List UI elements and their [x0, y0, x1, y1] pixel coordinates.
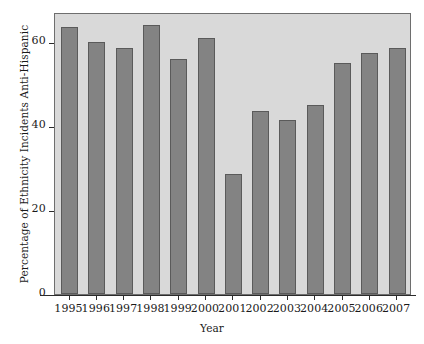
bars-layer: [55, 14, 410, 294]
bar-2000: [198, 38, 215, 294]
x-tick-mark-2002: [260, 295, 261, 300]
y-tick-label: 40: [32, 119, 46, 130]
y-axis-title: Percentage of Ethnicity Incidents Anti-H…: [16, 13, 32, 295]
x-axis-title: Year: [0, 321, 424, 335]
y-tick-60: 60: [0, 43, 54, 44]
x-tick-mark-2000: [205, 295, 206, 300]
x-tick-mark-2003: [287, 295, 288, 300]
x-tick-mark-1999: [178, 295, 179, 300]
bar-2002: [252, 111, 269, 294]
y-axis: Percentage of Ethnicity Incidents Anti-H…: [0, 0, 54, 344]
y-tick-20: 20: [0, 211, 54, 212]
x-tick-mark-1996: [96, 295, 97, 300]
y-tick-mark: [49, 43, 54, 44]
x-tick-mark-2006: [369, 295, 370, 300]
y-tick-label: 20: [32, 203, 46, 214]
bar-1997: [116, 48, 133, 294]
x-axis: Year 19951996199719981999200020012002200…: [0, 295, 424, 344]
bar-2006: [361, 53, 378, 295]
bar-2001: [225, 174, 242, 294]
bar-2004: [307, 105, 324, 294]
bar-1996: [88, 42, 105, 294]
y-tick-mark: [49, 211, 54, 212]
x-tick-mark-1997: [123, 295, 124, 300]
bar-2005: [334, 63, 351, 294]
bar-1999: [170, 59, 187, 294]
y-tick-mark: [49, 127, 54, 128]
bar-chart-figure: Percentage of Ethnicity Incidents Anti-H…: [0, 0, 424, 344]
x-tick-mark-2004: [314, 295, 315, 300]
y-tick-label: 60: [32, 35, 46, 46]
plot-panel: [54, 13, 411, 295]
y-tick-40: 40: [0, 127, 54, 128]
bar-2007: [389, 48, 406, 294]
x-tick-mark-2001: [232, 295, 233, 300]
x-tick-label-2007: 2007: [376, 302, 416, 315]
x-tick-mark-2005: [342, 295, 343, 300]
x-tick-mark-1995: [69, 295, 70, 300]
bar-1998: [143, 25, 160, 294]
bar-1995: [61, 27, 78, 294]
x-tick-mark-1998: [150, 295, 151, 300]
x-tick-mark-2007: [396, 295, 397, 300]
bar-2003: [279, 120, 296, 294]
